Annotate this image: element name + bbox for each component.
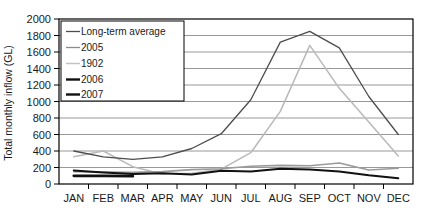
y-tick-label: 1400 bbox=[27, 63, 51, 75]
x-tick-label: MAR bbox=[121, 192, 146, 204]
y-tick-label: 1800 bbox=[27, 30, 51, 42]
chart-svg: Total monthly inflow (GL) 2000 1800 1600… bbox=[0, 0, 427, 215]
chart-legend: Long-term average 2005 1902 2006 2007 bbox=[61, 21, 184, 101]
legend-item-long-term-average[interactable]: Long-term average bbox=[66, 26, 166, 37]
legend-item-label: 2005 bbox=[81, 42, 104, 53]
legend-item-label: 1902 bbox=[81, 58, 104, 69]
x-tick-label: OCT bbox=[328, 192, 352, 204]
legend-item-label: 2007 bbox=[81, 89, 104, 100]
x-tick-label: FEB bbox=[93, 192, 114, 204]
x-tick-label: MAY bbox=[180, 192, 204, 204]
x-tick-label: APR bbox=[151, 192, 174, 204]
y-tick-label: 600 bbox=[33, 129, 51, 141]
y-tick-label: 400 bbox=[33, 145, 51, 157]
legend-item-label: 2006 bbox=[81, 74, 104, 85]
x-tick-label: DEC bbox=[387, 192, 410, 204]
x-tick-label: JUL bbox=[241, 192, 261, 204]
x-tick-label: AUG bbox=[268, 192, 292, 204]
y-tick-label: 1200 bbox=[27, 79, 51, 91]
y-tick-label: 0 bbox=[45, 178, 51, 190]
x-tick-label: JAN bbox=[63, 192, 84, 204]
y-tick-label: 800 bbox=[33, 112, 51, 124]
y-tick-label: 2000 bbox=[27, 13, 51, 25]
x-tick-label: SEP bbox=[299, 192, 321, 204]
inflow-line-chart: Total monthly inflow (GL) 2000 1800 1600… bbox=[0, 0, 427, 215]
legend-item-label: Long-term average bbox=[81, 26, 166, 37]
y-axis-title: Total monthly inflow (GL) bbox=[2, 45, 14, 161]
x-tick-label: JUN bbox=[211, 192, 232, 204]
x-tick-label: NOV bbox=[357, 192, 382, 204]
y-tick-label: 200 bbox=[33, 162, 51, 174]
y-tick-label: 1600 bbox=[27, 46, 51, 58]
y-tick-label: 1000 bbox=[27, 96, 51, 108]
